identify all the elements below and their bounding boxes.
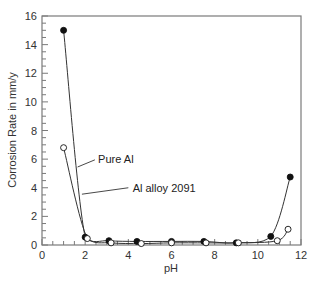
curve-al-alloy-2091	[64, 30, 291, 243]
filled-data-point	[287, 174, 293, 180]
open-data-point	[84, 236, 90, 242]
x-tick-label: 8	[212, 249, 218, 261]
y-tick-label: 6	[31, 153, 37, 165]
x-tick-label: 10	[252, 249, 264, 261]
pure-al-leader-line	[78, 160, 95, 167]
y-tick-label: 14	[25, 39, 37, 51]
x-tick-label: 2	[82, 249, 88, 261]
pure-al-label: Pure Al	[98, 153, 133, 165]
y-tick-label: 12	[25, 67, 37, 79]
y-tick-label: 4	[31, 182, 37, 194]
alloy-leader-line	[82, 188, 128, 194]
x-axis-title: pH	[164, 262, 178, 274]
open-data-point	[138, 241, 144, 247]
y-tick-label: 2	[31, 210, 37, 222]
open-data-point	[203, 240, 209, 246]
curves	[64, 30, 291, 243]
y-tick-label: 16	[25, 10, 37, 22]
x-tick-label: 0	[39, 249, 45, 261]
x-tick-label: 12	[295, 249, 307, 261]
y-axis-title: Corrosion Rate in mm/y	[6, 72, 18, 188]
filled-data-point	[61, 27, 67, 33]
open-data-point	[274, 238, 280, 244]
y-tick-label: 8	[31, 125, 37, 137]
open-data-point	[61, 145, 67, 151]
axes: 0246810120246810121416	[25, 10, 307, 261]
corrosion-rate-chart: 0246810120246810121416 Pure AlAl alloy 2…	[0, 0, 316, 285]
open-data-point	[108, 240, 114, 246]
annotations: Pure AlAl alloy 2091	[78, 153, 196, 194]
x-tick-label: 4	[125, 249, 131, 261]
open-data-point	[285, 226, 291, 232]
open-data-point	[235, 240, 241, 246]
y-tick-label: 0	[31, 239, 37, 251]
y-tick-label: 10	[25, 96, 37, 108]
filled-data-point	[268, 233, 274, 239]
data-markers	[61, 27, 294, 246]
alloy-2091-label: Al alloy 2091	[133, 182, 196, 194]
open-data-point	[169, 240, 175, 246]
x-tick-label: 6	[168, 249, 174, 261]
